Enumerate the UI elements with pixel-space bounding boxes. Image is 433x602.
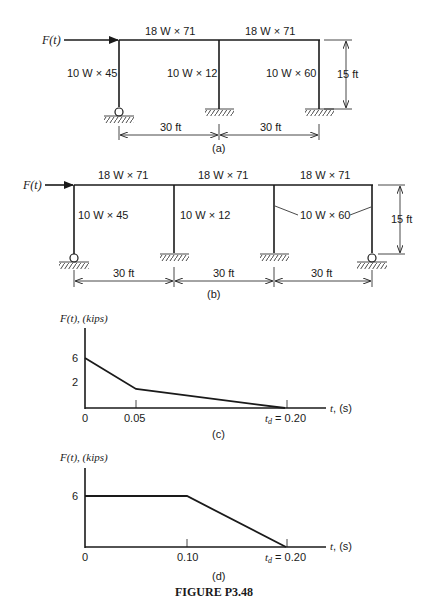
force-curve: [85, 496, 286, 547]
beam-label-1: 18 W × 71: [98, 169, 148, 181]
figure-title: FIGURE P3.48: [175, 585, 253, 599]
caption-d: (d): [212, 570, 225, 582]
xtick-0: 0: [82, 412, 88, 424]
caption-a: (a): [212, 142, 225, 154]
column-label-2: 10 W × 12: [167, 67, 217, 79]
column-label-3: 10 W × 60: [300, 209, 350, 221]
chart-d-ylabel: F(t), (kips): [59, 451, 108, 464]
beam-label-1: 18 W × 71: [145, 25, 195, 37]
chart-c-ylabel: F(t), (kips): [59, 312, 108, 325]
leader-line: [350, 207, 371, 215]
ground-hatch-icon: [59, 263, 89, 269]
xtick-010: 0.10: [177, 551, 198, 563]
load-label-b: F(t): [22, 178, 42, 192]
ytick-2: 2: [72, 376, 78, 388]
span-label-2: 30 ft: [213, 267, 234, 279]
beam-label-2: 18 W × 71: [198, 169, 248, 181]
ground-hatch-icon: [104, 117, 134, 123]
span-label-2: 30 ft: [260, 121, 281, 133]
xtick-0: 0: [82, 551, 88, 563]
height-label-a: 15 ft: [337, 68, 358, 80]
chart-c-xlabel: t, (s): [330, 402, 352, 414]
pin-support-icon: [70, 254, 78, 262]
chart-d-xlabel: t, (s): [330, 540, 352, 552]
frame-a: F(t) 18 W × 71 18 W × 71 10 W × 45 10 W …: [41, 25, 358, 154]
xtick-td: td = 0.20: [265, 412, 306, 426]
column-label-3: 10 W × 60: [266, 67, 316, 79]
pin-support-icon: [368, 254, 376, 262]
span-label-1: 30 ft: [160, 121, 181, 133]
xtick-005: 0.05: [124, 412, 145, 424]
ytick-6: 6: [72, 352, 78, 364]
caption-b: (b): [207, 288, 220, 300]
caption-c: (c): [212, 428, 225, 440]
column-label-2: 10 W × 12: [180, 209, 230, 221]
beam-label-3: 18 W × 71: [300, 169, 350, 181]
chart-d: F(t), (kips) 6 0 0.10 td = 0.20 t, (s) (…: [59, 451, 352, 582]
column-label-1: 10 W × 45: [67, 67, 117, 79]
pin-support-icon: [115, 108, 123, 116]
load-label-a: F(t): [41, 33, 61, 47]
frame-b: F(t) 18 W × 71 18 W × 71 18 W × 71 10 W …: [22, 169, 412, 300]
height-label-b: 15 ft: [391, 213, 412, 225]
fixed-support-icon: [260, 255, 289, 261]
column-label-1: 10 W × 45: [78, 209, 128, 221]
fixed-support-icon: [160, 255, 189, 261]
span-label-3: 30 ft: [311, 267, 332, 279]
leader-line: [275, 206, 298, 215]
fixed-support-icon: [305, 110, 334, 116]
ground-hatch-icon: [357, 263, 387, 269]
span-label-1: 30 ft: [113, 267, 134, 279]
figure-canvas: F(t) 18 W × 71 18 W × 71 10 W × 45 10 W …: [0, 0, 433, 602]
ytick-6: 6: [72, 490, 78, 502]
xtick-td: td = 0.20: [265, 551, 306, 565]
beam-label-2: 18 W × 71: [245, 25, 295, 37]
force-curve: [85, 358, 285, 408]
chart-c: F(t), (kips) 6 2 0 0.05 td = 0.20 t, (s)…: [59, 312, 352, 440]
fixed-support-icon: [205, 110, 234, 116]
